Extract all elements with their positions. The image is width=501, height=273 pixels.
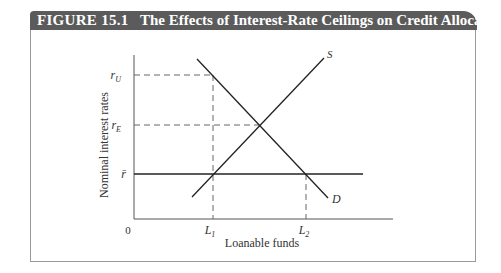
L2-label: L2 — [298, 223, 310, 239]
rE-label: rE — [111, 118, 121, 134]
origin-label: 0 — [125, 224, 131, 236]
y-axis-title: Nominal interest rates — [97, 92, 111, 198]
demand-curve — [197, 59, 328, 198]
x-axis-title: Loanable funds — [225, 236, 300, 250]
D-label: D — [331, 192, 341, 206]
L1-label: L1 — [204, 223, 216, 239]
rU-label: rU — [111, 68, 123, 84]
S-label: S — [327, 48, 333, 60]
supply-curve — [192, 58, 324, 197]
rbar-label: r̄ — [121, 167, 126, 181]
chart: rU rE r̄ 0 L1 L2 S D Loanable funds Nomi… — [0, 0, 501, 273]
